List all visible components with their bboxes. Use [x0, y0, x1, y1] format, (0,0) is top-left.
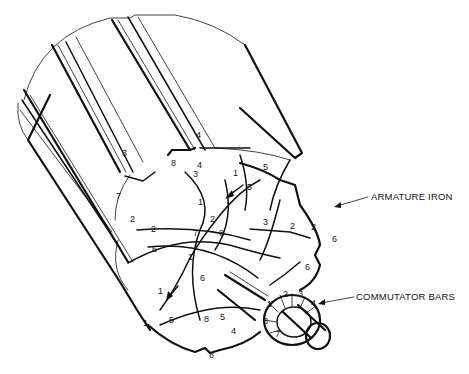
slot-label: 1 [158, 286, 163, 296]
commutator-bars-label: COMMUTATOR BARS [356, 291, 455, 302]
arrowhead-icon [318, 299, 325, 305]
slot-label: 5 [169, 315, 174, 325]
slot-label: 4 [197, 160, 202, 170]
slot-label: 8 [204, 314, 209, 324]
slot-label: 8 [209, 350, 214, 360]
slot-label: 8 [171, 158, 176, 168]
slot-label: 8 [219, 228, 224, 238]
slot-label: 6 [332, 234, 337, 244]
leader-line [337, 197, 368, 206]
commutator-bar-label: 4 [311, 298, 316, 308]
armature-iron-label: ARMATURE IRON [371, 191, 453, 202]
arrowhead-icon [334, 202, 341, 208]
callout-armature-iron: ARMATURE IRON [334, 191, 453, 208]
commutator-bar-label: 2 [283, 289, 288, 299]
slot-label: 6 [200, 273, 205, 283]
slot-label: 2 [290, 221, 295, 231]
slot-label: 7 [193, 228, 198, 238]
slot-label: 3 [122, 148, 127, 158]
commutator-bar-label: 3 [298, 289, 303, 299]
armature-iron [18, 15, 320, 353]
commutator-bar-label: 1 [267, 299, 272, 309]
slot-label: 5 [220, 312, 225, 322]
slot-label: 1 [143, 318, 148, 328]
slot-label: 1 [188, 252, 193, 262]
slot-label: 3 [263, 217, 268, 227]
slot-label: 4 [196, 130, 201, 140]
armature-diagram: 3 3 8 4 4 5 1 5 7 1 2 2 2 7 8 3 2 2 6 6 … [0, 0, 469, 374]
slot-label: 2 [311, 222, 316, 232]
slot-label: 5 [263, 162, 268, 172]
commutator-bar-label: 8 [263, 316, 268, 326]
slot-label: 3 [193, 169, 198, 179]
commutator [218, 272, 330, 349]
slot-label: 6 [152, 244, 157, 254]
slot-label: 4 [231, 326, 236, 336]
slot-label: 2 [151, 224, 156, 234]
callout-commutator-bars: COMMUTATOR BARS [318, 291, 455, 305]
slot-label: 1 [233, 168, 238, 178]
slot-label: 7 [116, 191, 121, 201]
slot-label: 5 [247, 182, 252, 192]
leader-line [321, 297, 354, 303]
commutator-bar-label: 7 [275, 329, 280, 339]
slot-label: 2 [210, 214, 215, 224]
slot-label: 6 [305, 262, 310, 272]
slot-label: 1 [198, 197, 203, 207]
slot-label: 2 [130, 214, 135, 224]
